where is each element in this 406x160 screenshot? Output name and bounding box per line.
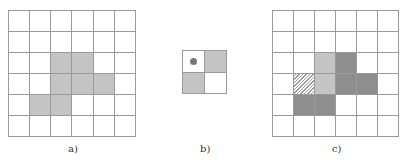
grid-cell-empty	[30, 32, 51, 53]
grid-cell-empty	[115, 11, 136, 32]
grid-cell-empty	[336, 11, 357, 32]
dot-icon	[190, 58, 197, 65]
grid-cell-empty	[9, 53, 30, 74]
grid-cell-empty	[315, 32, 336, 53]
grid-cell-empty	[378, 116, 399, 137]
grid-cell-light	[51, 53, 72, 74]
grid-cell-empty	[30, 116, 51, 137]
grid-cell-empty	[205, 73, 227, 95]
grid-cell-dark	[315, 95, 336, 116]
grid-cell-empty	[273, 116, 294, 137]
grid-cell-empty	[94, 32, 115, 53]
grid-cell-empty	[273, 11, 294, 32]
grid-cell-empty	[336, 116, 357, 137]
grid-cell-empty	[357, 95, 378, 116]
grid-cell-empty	[115, 116, 136, 137]
grid-cell-empty	[72, 11, 93, 32]
grid-cell-light	[315, 53, 336, 74]
grid-cell-dark	[294, 95, 315, 116]
grid-cell-light	[51, 74, 72, 95]
grid-cell-empty	[9, 32, 30, 53]
grid-cell-empty	[357, 32, 378, 53]
grid-cell-light	[183, 73, 205, 95]
grid-cell-empty	[378, 53, 399, 74]
grid-cell-empty	[273, 53, 294, 74]
grid-cell-hatched	[294, 74, 315, 95]
panel-label-b: b)	[200, 143, 210, 154]
grid-cell-empty	[9, 95, 30, 116]
grid-cell-empty	[378, 74, 399, 95]
grid-cell-dark	[357, 74, 378, 95]
grid-cell-empty	[336, 32, 357, 53]
grid-cell-empty	[9, 74, 30, 95]
grid-cell-light	[94, 74, 115, 95]
grid-cell-empty	[72, 116, 93, 137]
grid-cell-empty	[72, 32, 93, 53]
grid-cell-empty	[378, 32, 399, 53]
grid-cell-empty	[115, 74, 136, 95]
grid-cell-light	[51, 95, 72, 116]
panel-label-a: a)	[68, 143, 78, 154]
grid-cell-dark	[336, 53, 357, 74]
grid-cell-empty	[94, 53, 115, 74]
grid-cell-light	[72, 53, 93, 74]
grid-cell-empty	[115, 95, 136, 116]
grid-cell-empty	[294, 11, 315, 32]
panel-label-c: c)	[332, 143, 342, 154]
grid-cell-empty	[315, 116, 336, 137]
grid-cell-light	[72, 74, 93, 95]
grid-cell-empty	[115, 53, 136, 74]
grid-cell-empty	[94, 11, 115, 32]
grid-cell-empty	[294, 32, 315, 53]
grid-cell-dark	[336, 74, 357, 95]
grid-cell-empty	[273, 95, 294, 116]
grid-cell-light	[315, 74, 336, 95]
grid-cell-empty	[294, 116, 315, 137]
grid-cell-empty	[115, 32, 136, 53]
grid-cell-empty	[94, 116, 115, 137]
grid-cell-dot	[183, 51, 205, 73]
grid-panel-b	[182, 50, 227, 94]
grid-cell-empty	[94, 95, 115, 116]
grid-cell-empty	[30, 53, 51, 74]
grid-cell-empty	[315, 11, 336, 32]
grid-cell-empty	[378, 11, 399, 32]
grid-cell-empty	[51, 11, 72, 32]
grid-panel-c	[272, 10, 399, 137]
grid-cell-light	[205, 51, 227, 73]
grid-cell-empty	[30, 74, 51, 95]
grid-cell-empty	[378, 95, 399, 116]
grid-cell-empty	[357, 116, 378, 137]
grid-cell-empty	[273, 74, 294, 95]
grid-cell-empty	[51, 116, 72, 137]
grid-cell-empty	[357, 53, 378, 74]
grid-cell-empty	[357, 11, 378, 32]
grid-cell-light	[30, 95, 51, 116]
grid-cell-empty	[9, 116, 30, 137]
grid-cell-empty	[9, 11, 30, 32]
grid-cell-empty	[273, 32, 294, 53]
grid-cell-empty	[51, 32, 72, 53]
grid-cell-empty	[72, 95, 93, 116]
grid-cell-empty	[294, 53, 315, 74]
grid-cell-empty	[30, 11, 51, 32]
grid-cell-empty	[336, 95, 357, 116]
grid-panel-a	[8, 10, 136, 137]
